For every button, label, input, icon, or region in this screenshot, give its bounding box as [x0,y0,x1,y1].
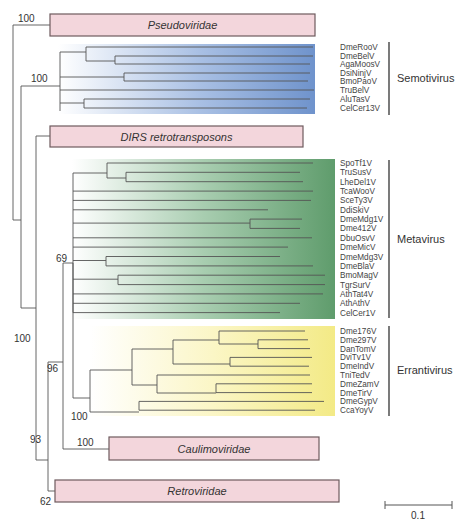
leaf-label: DmeTirV [340,389,373,398]
semotivirus-shading [58,44,315,114]
bootstrap-value: 100 [77,437,94,448]
leaf-label: DmeZamV [340,380,380,389]
leaf-label: TgrSurV [340,281,371,290]
leaf-label: DmeRooV [340,43,378,52]
leaf-label: AgaMoosV [340,60,381,69]
bootstrap-value: 93 [30,434,42,445]
bootstrap-value: 96 [47,363,59,374]
leaf-label: TniTedV [340,371,371,380]
leaf-label: SceTy3V [340,196,373,205]
leaf-label: DbuOsvV [340,234,376,243]
leaf-label: DmeMdg1V [340,215,384,224]
leaf-label: AthAthV [340,299,371,308]
phylogenetic-tree: PseudoviridaeDIRS retrotransposonsCaulim… [0,0,463,524]
group-label: Errantivirus [397,364,453,376]
leaf-label: DanTomV [340,345,376,354]
leaf-label: BmoPaoV [340,77,377,86]
leaf-label: DmeBlaV [340,262,375,271]
group-brackets: SemotivirusMetavirusErrantivirus [389,42,455,416]
leaf-label: TruBelV [340,86,370,95]
leaf-label: Dme176V [340,327,377,336]
group-label: Semotivirus [397,72,455,84]
leaf-label: TruSusV [340,168,372,177]
metavirus-shading [72,159,335,319]
bootstrap-value: 100 [31,73,48,84]
leaf-label: DmeGypV [340,397,378,406]
group-label: Metavirus [397,233,445,245]
leaf-label: LheDel1V [340,178,376,187]
leaf-label: DmeMdg3V [340,253,384,262]
bootstrap-value: 100 [71,411,88,422]
leaf-label: AthTat4V [340,290,374,299]
leaf-label: AluTasV [340,95,371,104]
leaf-label: BmoMagV [340,271,379,280]
leaf-label: CelCer1V [340,309,376,318]
clade-box-label: Retroviridae [167,485,226,497]
scale-bar [385,501,452,509]
leaf-labels: DmeRooVDmeBelVAgaMoosVDsiNinjVBmoPaoVTru… [340,43,384,415]
leaf-label: CcaYoyV [340,406,374,415]
leaf-label: Dme412V [340,224,377,233]
leaf-label: DdiSkiV [340,206,370,215]
leaf-label: Dme297V [340,336,377,345]
leaf-label: TcaWooV [340,187,375,196]
leaf-label: DmeIndV [340,362,375,371]
leaf-label: CelCer13V [340,104,381,113]
leaf-label: DmeMicV [340,243,376,252]
clade-box-label: Pseudoviridae [148,19,218,31]
bootstrap-value: 69 [56,253,68,264]
clade-box-label: Caulimoviridae [178,443,251,455]
bootstrap-value: 100 [14,333,31,344]
bootstrap-value: 100 [18,13,35,24]
bootstrap-value: 62 [40,496,52,507]
leaf-label: SpoTf1V [340,159,372,168]
clade-box-label: DIRS retrotransposons [121,131,233,143]
leaf-label: DviTv1V [340,353,371,362]
scale-bar-label: 0.1 [411,510,425,521]
